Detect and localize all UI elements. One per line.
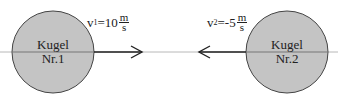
ball-2-label: Kugel Nr.2 [257,38,317,66]
v1-unit-den: s [122,23,126,32]
velocity-2-label: v2=-5 ms [207,13,247,32]
ball-2-label-line2: Nr.2 [257,52,317,66]
v1-unit: ms [119,13,130,32]
velocity-1-label: v1=10 ms [87,13,129,32]
v1-value: 10 [105,15,118,31]
v2-unit-den: s [240,23,244,32]
v1-equals: = [98,15,105,31]
ball-1-label-line1: Kugel [23,38,83,52]
arrow-left-icon [199,46,246,58]
v2-equals: = [218,15,225,31]
ball-1-label-line2: Nr.1 [23,52,83,66]
ball-2-label-line1: Kugel [257,38,317,52]
ball-1-label: Kugel Nr.1 [23,38,83,66]
v2-unit: ms [237,13,248,32]
v2-value: -5 [225,15,236,31]
arrow-right-icon [94,46,142,58]
